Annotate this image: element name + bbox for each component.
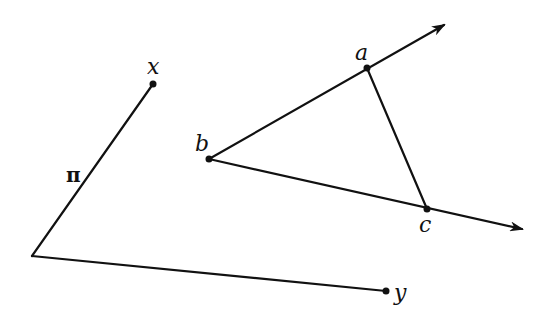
ray-bc (209, 159, 522, 229)
point-y (383, 288, 390, 295)
path-pi-to-x (32, 84, 153, 256)
label-pi: π (66, 163, 81, 187)
point-x (150, 81, 157, 88)
point-a (364, 65, 371, 72)
label-a: a (355, 40, 368, 65)
label-y: y (393, 280, 407, 305)
label-b: b (195, 131, 209, 156)
path-pi-to-y (32, 256, 386, 291)
label-x: x (147, 54, 160, 79)
point-b (206, 156, 213, 163)
ray-ba (209, 25, 444, 159)
diagram-canvas: x y π a b c (0, 0, 551, 320)
label-c: c (419, 212, 431, 237)
segment-ac (367, 68, 427, 209)
